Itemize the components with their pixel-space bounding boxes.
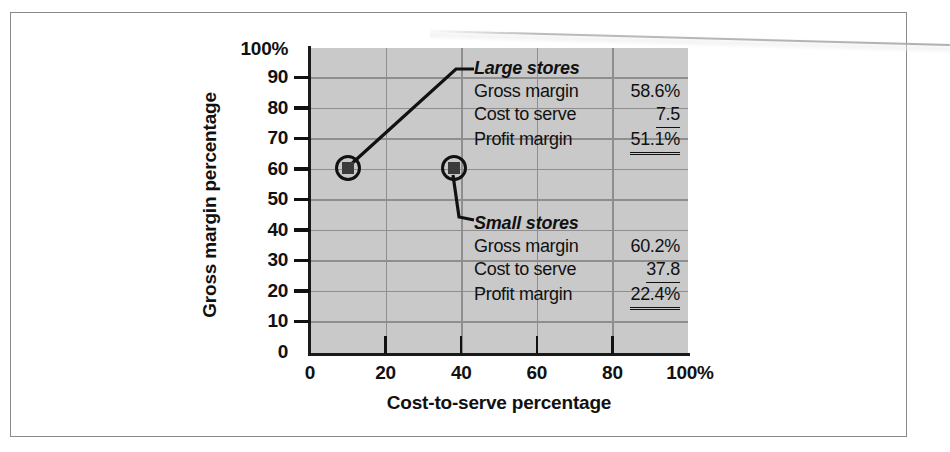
callout-label-gross-margin-large: Gross margin <box>474 80 606 103</box>
y-tick-label-80: 80 <box>222 97 288 119</box>
x-tick-label-0: 0 <box>305 362 315 384</box>
x-tick-80 <box>611 336 614 354</box>
callout-large-stores: Large stores Gross margin 58.6% Cost to … <box>474 58 680 155</box>
callout-row-gross-margin-large: Gross margin 58.6% <box>474 80 680 103</box>
y-axis-title: Gross margin percentage <box>197 75 223 335</box>
y-tick-label-60: 60 <box>222 158 288 180</box>
y-tick-label-100: 100% <box>222 38 288 60</box>
y-tick-60 <box>294 167 310 171</box>
y-tick-50 <box>294 198 310 202</box>
y-tick-20 <box>294 289 310 293</box>
callout-value-gross-margin-small: 60.2% <box>606 235 680 258</box>
y-tick-label-70: 70 <box>222 127 288 149</box>
y-tick-label-90: 90 <box>222 66 288 88</box>
callout-label-cost-to-serve-small: Cost to serve <box>474 258 606 281</box>
y-tick-90 <box>294 76 310 80</box>
gridline-y-60 <box>310 169 688 171</box>
y-tick-70 <box>294 137 310 141</box>
x-tick-60 <box>536 336 539 354</box>
callout-label-cost-to-serve-large: Cost to serve <box>474 103 606 126</box>
callout-value-profit-margin-small: 22.4% <box>606 283 680 310</box>
y-tick-10 <box>294 320 310 324</box>
callout-label-profit-margin-large: Profit margin <box>474 128 606 151</box>
callout-value-gross-margin-large: 58.6% <box>606 80 680 103</box>
y-tick-label-10: 10 <box>222 310 288 332</box>
x-tick-label-100: 100% <box>666 362 713 384</box>
y-axis-title-text: Gross margin percentage <box>199 92 221 318</box>
y-tick-30 <box>294 259 310 263</box>
callout-value-profit-margin-large: 51.1% <box>606 128 680 155</box>
x-axis-title: Cost-to-serve percentage <box>310 392 688 414</box>
gridline-x-20 <box>386 48 388 353</box>
y-tick-80 <box>294 106 310 110</box>
callout-row-profit-margin-small: Profit margin 22.4% <box>474 283 680 310</box>
callout-row-profit-margin-large: Profit margin 51.1% <box>474 128 680 155</box>
callout-large-stores-title: Large stores <box>474 58 680 79</box>
x-tick-40 <box>460 336 463 354</box>
x-tick-label-20: 20 <box>375 362 396 384</box>
x-tick-20 <box>384 336 387 354</box>
y-tick-label-50: 50 <box>222 188 288 210</box>
x-tick-label-60: 60 <box>527 362 548 384</box>
x-tick-label-80: 80 <box>602 362 623 384</box>
callout-row-cost-to-serve-large: Cost to serve 7.5 <box>474 103 680 127</box>
gridline-x-40 <box>461 48 463 353</box>
data-point-small-stores[interactable] <box>441 155 467 181</box>
gridline-y-10 <box>310 321 688 323</box>
callout-value-cost-to-serve-small: 37.8 <box>606 258 680 282</box>
y-tick-40 <box>294 228 310 232</box>
gridline-y-50 <box>310 199 688 201</box>
x-axis-line <box>308 353 690 356</box>
y-tick-label-30: 30 <box>222 249 288 271</box>
callout-value-cost-to-serve-large: 7.5 <box>606 103 680 127</box>
data-point-large-stores[interactable] <box>335 155 361 181</box>
callout-small-stores: Small stores Gross margin 60.2% Cost to … <box>474 213 680 310</box>
callout-row-cost-to-serve-small: Cost to serve 37.8 <box>474 258 680 282</box>
callout-small-stores-title: Small stores <box>474 213 680 234</box>
callout-row-gross-margin-small: Gross margin 60.2% <box>474 235 680 258</box>
x-tick-label-40: 40 <box>451 362 472 384</box>
callout-label-gross-margin-small: Gross margin <box>474 235 606 258</box>
y-tick-label-40: 40 <box>222 219 288 241</box>
y-tick-label-20: 20 <box>222 280 288 302</box>
callout-label-profit-margin-small: Profit margin <box>474 283 606 306</box>
y-tick-label-0: 0 <box>222 341 288 363</box>
